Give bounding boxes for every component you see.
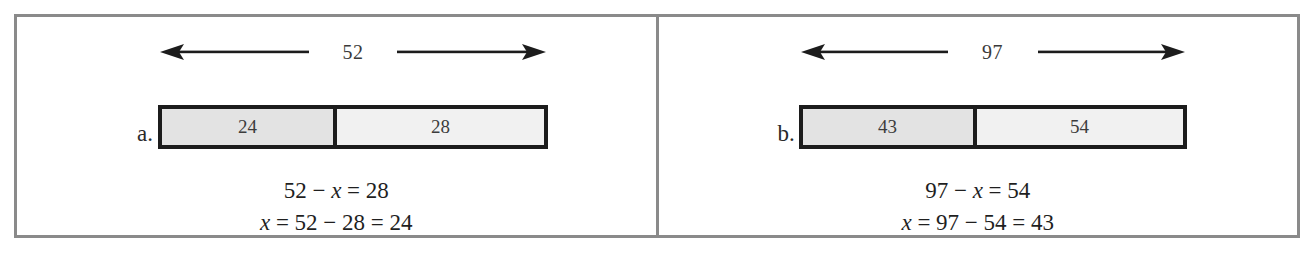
panel-a-equation-2: x = 52 − 28 = 24 <box>17 207 656 239</box>
panel-b-letter: b. <box>778 121 795 147</box>
panel-a-bar-model: 24 28 <box>158 105 548 149</box>
panel-a-equations: 52 − x = 28 x = 52 − 28 = 24 <box>17 175 656 238</box>
panel-a-measure-row: 52 <box>17 41 656 71</box>
left-arrow-icon <box>799 41 949 63</box>
panel-b: 97 b. 43 54 97 − x = 54 x = 97 − 54 = 43 <box>659 17 1298 235</box>
panel-b-equation-1: 97 − x = 54 <box>659 175 1298 207</box>
panel-a-letter: a. <box>137 121 153 147</box>
panel-a-segment-left: 24 <box>162 109 337 145</box>
figure-frame: 52 a. 24 28 52 − x = 28 x = 52 − 28 = 24 <box>14 14 1300 238</box>
panel-b-bar: 43 54 <box>799 105 1187 149</box>
panel-a: 52 a. 24 28 52 − x = 28 x = 52 − 28 = 24 <box>17 17 656 235</box>
right-arrow-icon <box>396 41 548 63</box>
panel-b-bar-model: 43 54 <box>799 105 1187 149</box>
panel-b-total-label: 97 <box>972 42 1013 62</box>
panel-a-segment-right: 28 <box>337 109 544 145</box>
right-arrow-icon <box>1037 41 1187 63</box>
panel-a-equation-1: 52 − x = 28 <box>17 175 656 207</box>
panel-b-measure-row: 97 <box>659 41 1298 71</box>
panel-a-bar: 24 28 <box>158 105 548 149</box>
panel-b-equation-2: x = 97 − 54 = 43 <box>659 207 1298 239</box>
panel-a-total-label: 52 <box>333 42 374 62</box>
panel-b-segment-left: 43 <box>803 109 977 145</box>
panel-b-segment-right: 54 <box>977 109 1183 145</box>
left-arrow-icon <box>158 41 310 63</box>
panel-b-equations: 97 − x = 54 x = 97 − 54 = 43 <box>659 175 1298 238</box>
